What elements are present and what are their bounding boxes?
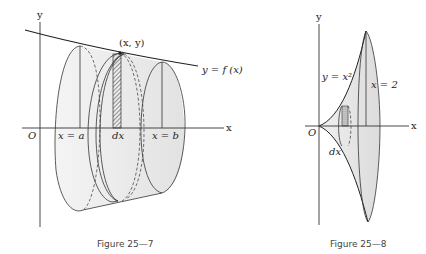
figure-25-8: y x O y = x² x = 2 dx Figure 25—8 bbox=[305, 11, 417, 249]
x-axis-label: x bbox=[411, 120, 417, 131]
figure-caption: Figure 25—8 bbox=[330, 239, 387, 249]
curve-label: y = f (x) bbox=[201, 64, 243, 75]
left-bound-label: x = a bbox=[58, 130, 84, 141]
figure-25-7: y x O (x, y) y = f (x) x = a dx x = b Fi… bbox=[22, 9, 243, 249]
origin-label: O bbox=[28, 130, 36, 141]
y-axis-label: y bbox=[315, 11, 322, 22]
right-bound-label: x = 2 bbox=[371, 79, 398, 90]
hatched-strip bbox=[113, 54, 121, 128]
curve-label: y = x² bbox=[321, 71, 352, 82]
dx-label: dx bbox=[112, 130, 124, 141]
y-axis-label: y bbox=[36, 9, 43, 20]
origin-label: O bbox=[308, 127, 316, 138]
x-axis-label: x bbox=[226, 122, 232, 133]
dotted-strip bbox=[342, 106, 348, 126]
figures-canvas: y x O (x, y) y = f (x) x = a dx x = b Fi… bbox=[0, 0, 426, 254]
solid-of-revolution bbox=[319, 31, 380, 222]
dx-label: dx bbox=[329, 146, 341, 157]
point-xy bbox=[118, 51, 121, 54]
point-label: (x, y) bbox=[119, 37, 145, 48]
figure-caption: Figure 25—7 bbox=[97, 239, 154, 249]
right-bound-label: x = b bbox=[152, 130, 179, 141]
